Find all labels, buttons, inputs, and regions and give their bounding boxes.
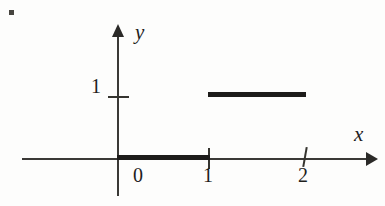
x-tick-label-2: 2 <box>298 165 308 185</box>
step-segment-lower <box>117 155 210 160</box>
corner-bullet-mark <box>9 10 14 15</box>
y-axis-line <box>117 26 119 196</box>
step-function-figure: y x 1 0 1 2 <box>0 0 385 206</box>
y-axis-tick-1 <box>108 96 129 98</box>
x-axis-arrowhead-icon <box>366 152 378 166</box>
x-axis-label: x <box>354 124 363 145</box>
y-tick-label-1: 1 <box>91 76 101 96</box>
x-tick-label-1: 1 <box>203 165 213 185</box>
y-axis-label: y <box>135 22 144 43</box>
step-segment-upper <box>208 92 306 97</box>
x-tick-label-0: 0 <box>133 165 143 185</box>
y-axis-arrowhead-icon <box>112 24 124 37</box>
